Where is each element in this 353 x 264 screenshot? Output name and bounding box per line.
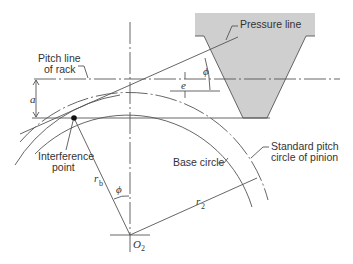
label-interference-2: point [52, 161, 75, 173]
label-e: e [181, 79, 186, 91]
svg-text:2: 2 [201, 202, 205, 211]
label-pressure-line: Pressure line [240, 18, 301, 30]
svg-text:2: 2 [141, 244, 145, 253]
label-base-circle: Base circle [173, 156, 225, 168]
gear-diagram: a e ϕ ϕ Pressure line Pitch line of rack… [0, 0, 353, 264]
label-a: a [30, 93, 36, 105]
standard-pitch-circle [20, 92, 268, 200]
interference-point-marker [71, 115, 77, 121]
label-pitch-line-2: of rack [44, 63, 76, 75]
label-std-pitch-2: circle of pinion [271, 151, 338, 163]
phi-bottom-arc [114, 196, 129, 199]
svg-text:b: b [99, 179, 103, 188]
label-phi-top: ϕ [203, 65, 209, 77]
rb-line [74, 118, 130, 235]
label-o2: O [133, 238, 141, 250]
r2-line [130, 178, 257, 235]
label-phi-bottom: ϕ [116, 183, 122, 195]
